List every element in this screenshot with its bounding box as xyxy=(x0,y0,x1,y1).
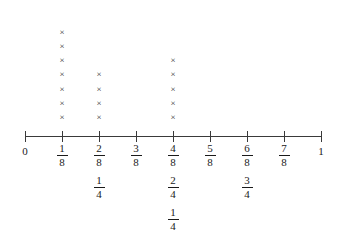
fraction-denominator: 8 xyxy=(93,156,105,168)
fraction-numerator: 1 xyxy=(167,207,179,219)
fraction-numerator: 7 xyxy=(278,143,290,155)
axis-tick-label-fraction: 24 xyxy=(167,175,179,200)
axis-tick-label-fraction: 78 xyxy=(278,143,290,168)
axis-tick-label-fraction: 28 xyxy=(93,143,105,168)
axis-tick xyxy=(25,131,26,142)
data-mark-x: × xyxy=(58,84,66,94)
data-mark-x: × xyxy=(58,41,66,51)
axis-tick-label-fraction: 58 xyxy=(204,143,216,168)
axis-tick-label-stack: 38 xyxy=(130,143,142,172)
axis-tick-label-fraction: 34 xyxy=(241,175,253,200)
data-mark-x: × xyxy=(169,69,177,79)
fraction-denominator: 8 xyxy=(56,156,68,168)
data-mark-x: × xyxy=(58,27,66,37)
axis-tick xyxy=(247,131,248,142)
axis-tick-label-fraction: 14 xyxy=(167,207,179,232)
data-mark-x: × xyxy=(58,98,66,108)
fraction-denominator: 8 xyxy=(130,156,142,168)
fraction-numerator: 1 xyxy=(93,175,105,187)
axis-tick-label-stack: 482414 xyxy=(167,143,179,236)
fraction-numerator: 3 xyxy=(130,143,142,155)
fraction-number-line-dot-plot: ×××××××××××××××× 01828143848241458683478… xyxy=(0,0,345,248)
fraction-numerator: 4 xyxy=(167,143,179,155)
data-mark-x: × xyxy=(58,112,66,122)
fraction-numerator: 2 xyxy=(167,175,179,187)
axis-tick-label-fraction: 38 xyxy=(130,143,142,168)
axis-tick xyxy=(62,131,63,142)
data-mark-x: × xyxy=(58,69,66,79)
data-mark-x: × xyxy=(95,84,103,94)
fraction-denominator: 8 xyxy=(278,156,290,168)
axis-tick-label-stack: 18 xyxy=(56,143,68,172)
axis-tick-label-fraction: 48 xyxy=(167,143,179,168)
axis-tick-label-fraction: 68 xyxy=(241,143,253,168)
axis-tick-label-stack: 58 xyxy=(204,143,216,172)
axis-tick-label-stack: 2814 xyxy=(93,143,105,204)
fraction-numerator: 5 xyxy=(204,143,216,155)
fraction-denominator: 8 xyxy=(167,156,179,168)
axis-tick xyxy=(210,131,211,142)
fraction-numerator: 6 xyxy=(241,143,253,155)
axis-tick-label-stack: 1 xyxy=(318,143,324,157)
data-mark-x: × xyxy=(169,112,177,122)
data-mark-x: × xyxy=(95,112,103,122)
data-mark-x: × xyxy=(95,98,103,108)
data-mark-x: × xyxy=(169,98,177,108)
fraction-denominator: 4 xyxy=(167,188,179,200)
axis-tick-label-stack: 78 xyxy=(278,143,290,172)
fraction-denominator: 4 xyxy=(167,220,179,232)
fraction-numerator: 1 xyxy=(56,143,68,155)
data-mark-x: × xyxy=(58,55,66,65)
data-mark-x: × xyxy=(95,69,103,79)
fraction-denominator: 4 xyxy=(241,188,253,200)
axis-tick xyxy=(321,131,322,142)
axis-tick-label-fraction: 18 xyxy=(56,143,68,168)
axis-tick-label-stack: 0 xyxy=(22,143,28,157)
axis-tick xyxy=(173,131,174,142)
axis-tick-label-stack: 6834 xyxy=(241,143,253,204)
data-mark-x: × xyxy=(169,55,177,65)
fraction-denominator: 8 xyxy=(204,156,216,168)
axis-tick xyxy=(99,131,100,142)
fraction-denominator: 4 xyxy=(93,188,105,200)
fraction-denominator: 8 xyxy=(241,156,253,168)
axis-tick-label-whole: 0 xyxy=(22,143,28,157)
data-mark-x: × xyxy=(169,84,177,94)
fraction-numerator: 2 xyxy=(93,143,105,155)
axis-tick-label-fraction: 14 xyxy=(93,175,105,200)
axis-tick-label-whole: 1 xyxy=(318,143,324,157)
fraction-numerator: 3 xyxy=(241,175,253,187)
axis-tick xyxy=(284,131,285,142)
axis-tick xyxy=(136,131,137,142)
